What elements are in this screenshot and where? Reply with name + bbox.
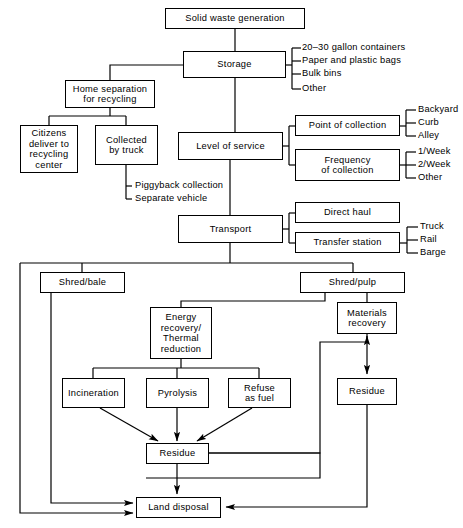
label-frequency-other: Other <box>418 172 442 183</box>
node-energy-recovery-thermal-reduction[interactable]: Energy recovery/ Thermal reduction <box>150 307 212 359</box>
edge-incineration-residue <box>100 408 158 441</box>
label-point-of-collection-backyard: Backyard <box>418 104 458 115</box>
label-point-of-collection-curb: Curb <box>418 117 439 128</box>
node-shred-pulp[interactable]: Shred/pulp <box>300 272 405 293</box>
label-storage-option-bags: Paper and plastic bags <box>302 55 401 66</box>
label-transfer-barge: Barge <box>420 247 446 258</box>
edge-storage-homesep <box>110 65 183 80</box>
label-separate-vehicle: Separate vehicle <box>135 193 207 204</box>
edge-shredpulp-down-left <box>181 293 325 307</box>
label-frequency-1-week: 1/Week <box>418 146 451 157</box>
label-transfer-rail: Rail <box>420 234 437 245</box>
label-point-of-collection-alley: Alley <box>418 130 439 141</box>
node-point-of-collection[interactable]: Point of collection <box>295 115 400 136</box>
flowchart-diagram: Solid waste generation Storage Home sepa… <box>0 0 463 528</box>
edge-residueright-landdisposal <box>226 405 367 507</box>
node-solid-waste-generation[interactable]: Solid waste generation <box>165 8 305 29</box>
node-shred-bale[interactable]: Shred/bale <box>40 272 125 293</box>
edge-refuse-residue <box>197 408 252 441</box>
node-materials-recovery[interactable]: Materials recovery <box>337 302 397 334</box>
label-storage-option-containers: 20–30 gallon containers <box>302 42 405 53</box>
node-citizens-deliver-to-recycling-center[interactable]: Citizens deliver to recycling center <box>20 125 78 173</box>
node-home-separation-for-recycling[interactable]: Home separation for recycling <box>65 80 155 108</box>
label-piggyback-collection: Piggyback collection <box>135 180 223 191</box>
label-storage-option-other: Other <box>302 83 326 94</box>
node-residue-right[interactable]: Residue <box>337 378 397 405</box>
node-residue-center[interactable]: Residue <box>146 443 209 464</box>
node-frequency-of-collection[interactable]: Frequency of collection <box>295 149 400 181</box>
node-refuse-as-fuel[interactable]: Refuse as fuel <box>228 378 291 408</box>
label-transfer-truck: Truck <box>420 221 444 232</box>
node-transport[interactable]: Transport <box>178 215 283 243</box>
node-land-disposal[interactable]: Land disposal <box>136 497 221 518</box>
node-storage[interactable]: Storage <box>183 51 286 78</box>
label-frequency-2-week: 2/Week <box>418 159 451 170</box>
label-storage-option-bulk-bins: Bulk bins <box>302 68 342 79</box>
node-direct-haul[interactable]: Direct haul <box>295 202 400 223</box>
node-collected-by-truck[interactable]: Collected by truck <box>95 125 158 165</box>
node-transfer-station[interactable]: Transfer station <box>295 232 400 253</box>
node-incineration[interactable]: Incineration <box>62 378 125 408</box>
node-pyrolysis[interactable]: Pyrolysis <box>146 378 209 408</box>
node-level-of-service[interactable]: Level of service <box>178 132 283 160</box>
